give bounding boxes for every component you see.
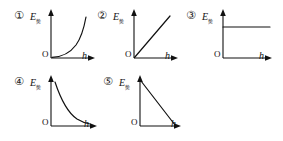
x-axis-label-4: h — [84, 119, 89, 129]
origin-label-2: O — [125, 50, 132, 59]
y-axis-arrow-2 — [131, 9, 137, 16]
option-number-1: ① — [14, 10, 24, 21]
y-axis-arrow-1 — [48, 9, 54, 16]
y-axis-arrow-4 — [48, 75, 54, 82]
graph-axes-curve-5 — [103, 72, 191, 132]
x-axis-label-1: h — [82, 51, 87, 61]
x-axis-arrow-4 — [90, 123, 97, 129]
origin-label-4: O — [42, 118, 49, 127]
y-axis-subscript: 势 — [119, 19, 124, 24]
x-axis-label-5: h — [171, 119, 176, 129]
graph-panel-2: ② E势 O h — [97, 6, 179, 64]
y-axis-label-1: E势 — [30, 12, 41, 24]
y-axis-label-4: E势 — [30, 78, 41, 90]
option-number-5: ⑤ — [103, 76, 113, 87]
option-number-3: ③ — [186, 10, 196, 21]
y-axis-label-3: E势 — [202, 12, 213, 24]
y-axis-arrow-3 — [220, 9, 226, 16]
origin-label-3: O — [214, 50, 221, 59]
y-axis-subscript: 势 — [125, 85, 130, 90]
curve-linear-decreasing-5 — [141, 81, 175, 125]
x-axis-arrow-2 — [171, 55, 178, 61]
x-axis-arrow-3 — [265, 55, 272, 61]
y-axis-subscript: 势 — [208, 19, 213, 24]
option-number-4: ④ — [14, 76, 24, 87]
graph-panel-5: ⑤ E势 O h — [103, 72, 191, 132]
x-axis-arrow-1 — [88, 55, 95, 61]
y-axis-arrow-5 — [137, 75, 143, 82]
x-axis-label-3: h — [259, 51, 264, 61]
graph-panel-4: ④ E势 O h — [14, 72, 102, 132]
y-axis-label-2: E势 — [113, 12, 124, 24]
physics-graph-figure: ① E势 O h ② E势 O h ③ E势 — [0, 0, 283, 141]
x-axis-label-2: h — [165, 51, 170, 61]
y-axis-label-5: E势 — [119, 78, 130, 90]
graph-axes-curve-3 — [186, 6, 278, 64]
option-number-2: ② — [97, 10, 107, 21]
graph-panel-1: ① E势 O h — [14, 6, 96, 64]
origin-label-5: O — [131, 118, 138, 127]
graph-panel-3: ③ E势 O h — [186, 6, 278, 64]
origin-label-1: O — [42, 50, 49, 59]
curve-increasing-convex-1 — [52, 17, 86, 57]
y-axis-subscript: 势 — [36, 85, 41, 90]
y-axis-subscript: 势 — [36, 19, 41, 24]
